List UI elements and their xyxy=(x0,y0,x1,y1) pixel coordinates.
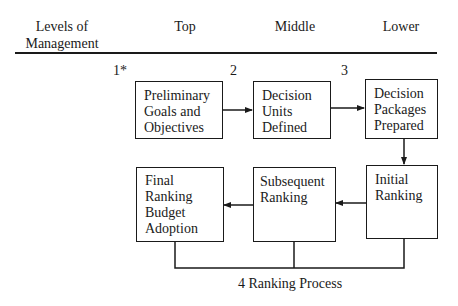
box-final-ranking: Final Ranking Budget Adoption xyxy=(136,167,224,242)
box-line: Decision xyxy=(374,86,437,102)
box-line: Final xyxy=(145,173,223,189)
box-line: Ranking xyxy=(260,190,335,206)
box-line: Goals and xyxy=(144,104,222,120)
box-subsequent-ranking: Subsequent Ranking xyxy=(253,167,336,242)
box-line: Adoption xyxy=(145,221,223,237)
box-line: Initial xyxy=(375,172,437,188)
box-line: Objectives xyxy=(144,120,222,136)
box-line: Prepared xyxy=(374,118,437,134)
box-decision-units: Decision Units Defined xyxy=(253,81,331,139)
box-line: Budget xyxy=(145,205,223,221)
box-line: Decision xyxy=(262,88,330,104)
box-line: Units xyxy=(262,104,330,120)
box-decision-packages: Decision Packages Prepared xyxy=(365,79,438,139)
box-line: Subsequent xyxy=(260,174,335,190)
box-line: Defined xyxy=(262,120,330,136)
box-preliminary-goals: Preliminary Goals and Objectives xyxy=(135,81,223,139)
flow-connectors xyxy=(0,0,458,306)
box-initial-ranking: Initial Ranking xyxy=(366,165,438,239)
ranking-process-caption: 4 Ranking Process xyxy=(220,276,360,292)
box-line: Preliminary xyxy=(144,88,222,104)
box-line: Ranking xyxy=(145,189,223,205)
box-line: Ranking xyxy=(375,188,437,204)
box-line: Packages xyxy=(374,102,437,118)
